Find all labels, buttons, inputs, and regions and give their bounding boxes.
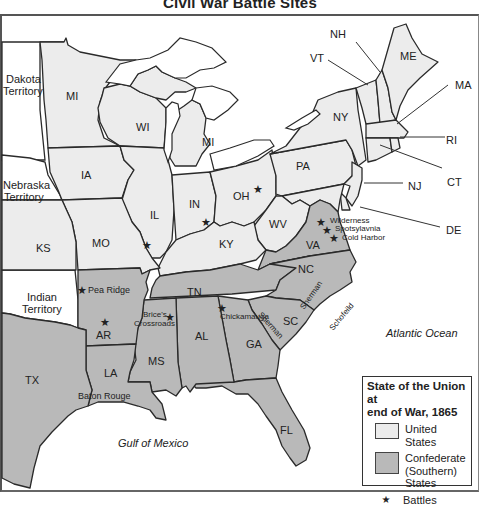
star-icon: ★	[77, 284, 87, 296]
label-ar: AR	[96, 329, 111, 341]
label-indian-1: Indian	[27, 291, 57, 303]
label-tn: TN	[187, 286, 202, 298]
label-indian-2: Territory	[22, 303, 62, 315]
label-ga: GA	[246, 338, 263, 350]
star-icon: ★	[329, 232, 339, 244]
star-icon: ★	[201, 216, 211, 228]
state-ks	[2, 200, 76, 270]
label-al: AL	[195, 330, 208, 342]
state-ri	[390, 138, 400, 152]
label-ia: IA	[81, 169, 92, 181]
label-nj: NJ	[408, 180, 421, 192]
battle-label-pea-ridge: Pea Ridge	[88, 285, 130, 295]
label-nebraska-1: Nebraska	[3, 179, 51, 191]
city-label-baton-rouge: Baton Rouge	[78, 391, 131, 401]
label-vt: VT	[310, 52, 324, 64]
state-ma	[366, 120, 408, 138]
label-nh: NH	[330, 28, 346, 40]
label-mo: MO	[92, 237, 110, 249]
battle-label-spotsylvania: Spotsylavnia	[335, 224, 381, 233]
label-ma: MA	[455, 79, 472, 91]
map-legend: State of the Union at end of War, 1865 U…	[362, 376, 472, 486]
label-wv: WV	[269, 218, 287, 230]
label-va: VA	[306, 239, 321, 251]
label-la: LA	[104, 367, 118, 379]
label-nc: NC	[298, 263, 314, 275]
leader-nh	[356, 42, 380, 72]
label-dakota-1: Dakota	[6, 73, 42, 85]
label-ms: MS	[148, 355, 165, 367]
legend-item-united-states: United States	[367, 423, 467, 448]
label-de: DE	[446, 224, 461, 236]
label-wi: WI	[136, 121, 149, 133]
legend-label-confederate: Confederate (Southern) States	[405, 452, 466, 490]
label-pa: PA	[296, 160, 311, 172]
star-icon: ★	[142, 239, 152, 251]
label-ks: KS	[36, 242, 51, 254]
label-tx: TX	[25, 374, 40, 386]
state-me	[382, 24, 438, 120]
united-states-swatch	[375, 423, 399, 439]
battle-label-brices-1: Brice's	[143, 310, 167, 319]
legend-title-line2: end of War, 1865	[367, 406, 467, 419]
state-ct	[366, 138, 392, 162]
state-fl	[190, 378, 310, 466]
confederate-swatch	[375, 452, 399, 474]
water-label-atlantic: Atlantic Ocean	[385, 327, 458, 339]
label-in: IN	[189, 198, 200, 210]
route-label-schofield: Schofeild	[328, 301, 356, 332]
legend-item-battles: ★ Battles	[367, 494, 467, 506]
label-ri: RI	[446, 134, 457, 146]
label-fl: FL	[280, 424, 293, 436]
label-sc: SC	[283, 315, 298, 327]
leader-vt	[328, 60, 368, 85]
legend-label-confederate-2: (Southern)	[405, 465, 457, 477]
leader-ct	[380, 145, 442, 168]
label-ct: CT	[447, 176, 462, 188]
label-dakota-2: Territory	[3, 85, 43, 97]
battle-label-brices-2: Crossroads	[134, 319, 175, 328]
label-mn: MI	[66, 90, 78, 102]
star-icon: ★	[375, 494, 397, 506]
legend-label-confederate-3: States	[405, 477, 436, 489]
legend-label-confederate-1: Confederate	[405, 452, 466, 464]
legend-title-line1: State of the Union at	[367, 380, 467, 406]
water-label-gulf: Gulf of Mexico	[118, 437, 188, 449]
legend-label-battles: Battles	[403, 494, 437, 506]
label-il: IL	[150, 209, 159, 221]
battle-label-cold-harbor: Cold Harbor	[342, 233, 385, 242]
label-oh: OH	[233, 190, 250, 202]
star-icon: ★	[253, 183, 263, 195]
label-ky: KY	[219, 238, 234, 250]
label-ny: NY	[333, 111, 349, 123]
label-me: ME	[400, 50, 417, 62]
label-mi: MI	[202, 136, 214, 148]
legend-item-confederate: Confederate (Southern) States	[367, 452, 467, 490]
label-nebraska-2: Territory	[4, 191, 44, 203]
legend-label-united-states: United States	[405, 423, 467, 448]
star-icon: ★	[100, 316, 110, 328]
